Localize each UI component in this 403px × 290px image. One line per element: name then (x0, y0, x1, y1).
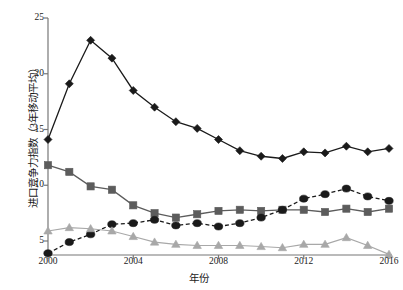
marker-triangle (214, 241, 222, 248)
marker-diamond (172, 118, 180, 126)
marker-square (321, 208, 328, 215)
marker-square (364, 208, 371, 215)
x-tick-label: 2016 (369, 256, 403, 266)
marker-diamond (215, 136, 223, 144)
marker-diamond (364, 148, 372, 156)
marker-square (130, 202, 137, 209)
marker-square (215, 207, 222, 214)
marker-diamond (321, 149, 329, 157)
marker-triangle (342, 233, 350, 240)
marker-square (343, 205, 350, 212)
marker-circle (321, 191, 329, 198)
marker-diamond (278, 154, 286, 162)
marker-triangle (236, 241, 244, 248)
marker-square (151, 210, 158, 217)
marker-circle (278, 206, 286, 213)
marker-triangle (65, 223, 73, 230)
marker-diamond (300, 148, 308, 156)
marker-square (108, 186, 115, 193)
marker-diamond (236, 147, 244, 155)
y-tick-label: 25 (20, 13, 44, 23)
marker-circle (236, 220, 244, 227)
x-tick-label: 2012 (284, 256, 324, 266)
y-axis-title: 进口竞争力指数（3年移动平均） (25, 46, 40, 226)
marker-square (258, 207, 265, 214)
marker-square (44, 162, 51, 169)
x-tick-label: 2008 (199, 256, 239, 266)
marker-circle (257, 214, 265, 221)
marker-circle (363, 193, 371, 200)
marker-circle (342, 185, 350, 192)
x-tick-label: 2004 (113, 256, 153, 266)
marker-circle (172, 222, 180, 229)
marker-circle (150, 216, 158, 223)
series-diamond (44, 36, 393, 162)
marker-diamond (342, 142, 350, 150)
marker-diamond (385, 144, 393, 152)
x-tick-label: 2000 (28, 256, 68, 266)
marker-circle (300, 195, 308, 202)
marker-square (194, 211, 201, 218)
x-axis-title: 年份 (0, 270, 398, 285)
y-tick-label: 5 (20, 236, 44, 246)
marker-circle (129, 220, 137, 227)
marker-diamond (44, 136, 52, 144)
marker-circle (65, 239, 73, 246)
marker-square (87, 183, 94, 190)
marker-square (300, 206, 307, 213)
marker-square (236, 206, 243, 213)
marker-diamond (65, 80, 73, 88)
axes-lines (48, 18, 392, 255)
marker-square (385, 205, 392, 212)
marker-square (66, 168, 73, 175)
marker-circle (193, 220, 201, 227)
marker-diamond (257, 152, 265, 160)
series-square (44, 162, 392, 222)
plot-series-group (44, 36, 393, 257)
marker-circle (214, 223, 222, 230)
marker-square (172, 214, 179, 221)
marker-triangle (300, 240, 308, 247)
marker-circle (385, 197, 393, 204)
marker-diamond (193, 124, 201, 132)
